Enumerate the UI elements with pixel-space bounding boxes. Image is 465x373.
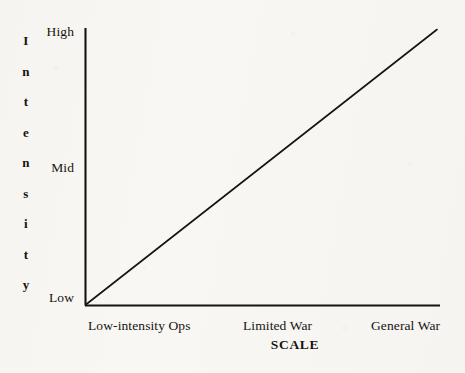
y-axis-title-letter: t bbox=[24, 87, 29, 118]
y-axis-title-letter: i bbox=[24, 209, 28, 240]
y-axis-title-letter: y bbox=[23, 270, 30, 301]
y-axis-title-letter: e bbox=[23, 118, 29, 149]
x-axis-title: SCALE bbox=[243, 337, 347, 353]
data-line-intensity-vs-scale bbox=[86, 30, 437, 305]
y-axis-title-letter: I bbox=[23, 26, 28, 57]
y-axis-title-letter: s bbox=[23, 179, 28, 210]
x-tick-label-limited-war: Limited War bbox=[243, 319, 312, 333]
x-tick-label-low-intensity-ops: Low-intensity Ops bbox=[88, 319, 191, 333]
y-axis-title-letter: t bbox=[24, 240, 29, 271]
y-axis-title: I n t e n s i t y bbox=[17, 26, 35, 301]
y-tick-label-low: Low bbox=[0, 291, 74, 305]
y-axis-title-letter: n bbox=[22, 148, 29, 179]
y-axis-title-letter: n bbox=[22, 57, 29, 88]
x-tick-label-general-war: General War bbox=[371, 319, 440, 333]
chart-figure: High Mid Low I n t e n s i t y Low-inten… bbox=[0, 0, 465, 373]
y-tick-label-mid: Mid bbox=[0, 161, 74, 175]
y-tick-label-high: High bbox=[0, 25, 74, 39]
